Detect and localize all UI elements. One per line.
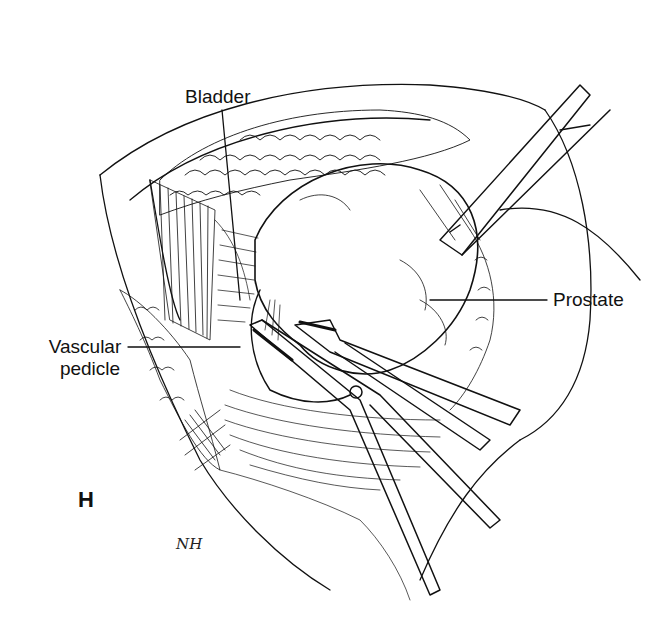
retractor-blade (440, 85, 610, 255)
artist-signature: NH (176, 535, 202, 553)
label-vascular-pedicle-line2: pedicle (40, 358, 130, 380)
right-angle-clamp (295, 320, 520, 450)
scissors (250, 320, 500, 595)
label-prostate: Prostate (553, 289, 624, 311)
label-vascular-pedicle-line1: Vascular (40, 336, 130, 358)
illustration-canvas: Bladder Vascular pedicle Prostate H NH (0, 0, 672, 624)
fat-tissue-top (160, 110, 470, 215)
pelvic-floor (220, 390, 440, 600)
label-vascular-pedicle: Vascular pedicle (40, 336, 130, 380)
bladder-tissue (215, 220, 258, 322)
left-muscle (120, 180, 230, 470)
panel-letter: H (78, 487, 94, 513)
bladder-leader-line (222, 110, 240, 300)
surgical-drawing (0, 0, 672, 624)
label-bladder: Bladder (185, 86, 251, 108)
right-tissue (420, 185, 494, 410)
